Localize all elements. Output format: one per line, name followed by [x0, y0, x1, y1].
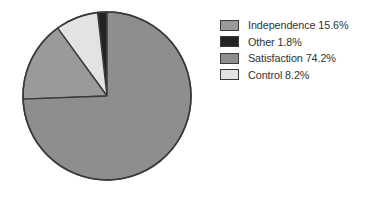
pie-svg	[18, 6, 200, 192]
legend-label-satisfaction: Satisfaction 74.2%	[248, 52, 336, 64]
legend-label-other: Other 1.8%	[248, 36, 302, 48]
legend-swatch-satisfaction	[220, 53, 239, 64]
legend-item-independence: Independence 15.6%	[220, 17, 380, 34]
legend-label-control: Control 8.2%	[248, 69, 309, 81]
chart-legend: Independence 15.6% Other 1.8% Satisfacti…	[220, 17, 380, 83]
legend-swatch-independence	[220, 20, 239, 31]
legend-label-independence: Independence 15.6%	[248, 19, 348, 31]
pie-slice-group	[23, 12, 191, 180]
legend-item-satisfaction: Satisfaction 74.2%	[220, 50, 380, 67]
legend-swatch-control	[220, 69, 239, 80]
pie-chart-plot-area	[18, 6, 200, 192]
legend-swatch-other	[220, 36, 239, 47]
legend-item-other: Other 1.8%	[220, 34, 380, 51]
pie-chart-figure: Independence 15.6% Other 1.8% Satisfacti…	[0, 0, 384, 199]
legend-item-control: Control 8.2%	[220, 67, 380, 84]
